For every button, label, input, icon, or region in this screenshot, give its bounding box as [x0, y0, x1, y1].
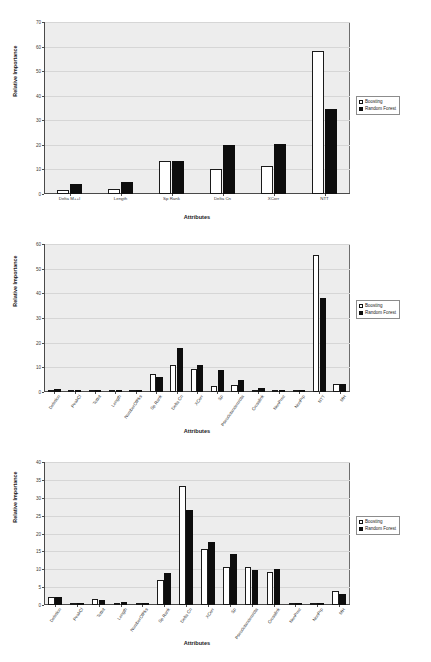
bar-random-forest — [172, 161, 184, 194]
x-axis-tick-mark — [339, 605, 340, 607]
legend: BoostingRandom Forest — [356, 516, 400, 535]
x-axis-tick-mark — [197, 392, 198, 394]
bar-random-forest — [54, 389, 60, 392]
bar-random-forest — [218, 370, 224, 392]
legend-swatch-random-forest-icon — [359, 311, 363, 315]
bar-group — [268, 244, 288, 392]
bar-boosting — [129, 390, 135, 392]
bar-group — [64, 244, 84, 392]
legend-label: Random Forest — [365, 106, 396, 113]
bar-random-forest — [75, 390, 81, 392]
x-axis-tick-label: NTT — [299, 196, 350, 201]
bar-boosting — [267, 572, 274, 605]
bar-group — [306, 462, 328, 605]
y-axis-tick-label: 10 — [36, 567, 41, 572]
bar-boosting — [312, 51, 324, 194]
bar-group — [248, 244, 268, 392]
bar-boosting — [150, 374, 156, 392]
x-axis-tick-mark — [258, 392, 259, 394]
y-axis-tick-label: 20 — [36, 531, 41, 536]
legend-label: Random Forest — [365, 310, 396, 317]
bar-boosting — [170, 365, 176, 392]
y-axis-tick-label: 30 — [36, 495, 41, 500]
bar-group — [44, 22, 95, 194]
x-axis-tick-mark — [208, 605, 209, 607]
bar-group — [95, 22, 146, 194]
x-axis-title: Attributes — [44, 428, 350, 434]
bar-group — [299, 22, 350, 194]
x-axis-tick-mark — [99, 605, 100, 607]
bar-group — [219, 462, 241, 605]
bar-boosting — [252, 390, 258, 392]
x-axis-tick-mark — [55, 605, 56, 607]
y-axis-tick-label: 10 — [36, 167, 41, 172]
legend-swatch-boosting-icon — [359, 520, 363, 524]
bar-boosting — [223, 567, 230, 605]
bar-boosting — [92, 599, 99, 605]
x-axis-tick-mark — [317, 605, 318, 607]
bar-random-forest — [320, 298, 326, 392]
y-axis-tick-label: 5 — [38, 585, 41, 590]
bar-random-forest — [339, 594, 346, 605]
x-axis-tick-label: Length — [95, 196, 146, 201]
bar-random-forest — [340, 384, 346, 392]
bar-group — [241, 462, 263, 605]
legend: BoostingRandom Forest — [356, 96, 400, 115]
x-axis-tick-mark — [230, 605, 231, 607]
bar-boosting — [57, 190, 69, 194]
bar-group — [284, 462, 306, 605]
x-axis-tick-mark — [177, 392, 178, 394]
bar-group — [110, 462, 132, 605]
bar-group — [66, 462, 88, 605]
x-axis-tick-mark — [340, 392, 341, 394]
legend-item-random-forest: Random Forest — [359, 310, 396, 317]
bar-group — [44, 462, 66, 605]
bar-random-forest — [299, 390, 305, 392]
x-axis-tick-mark — [186, 605, 187, 607]
x-axis-tick-mark — [54, 392, 55, 394]
bar-group — [126, 244, 146, 392]
y-axis-tick-label: 40 — [36, 291, 41, 296]
bar-random-forest — [55, 597, 62, 605]
bar-random-forest — [223, 145, 235, 194]
bar-group — [88, 462, 110, 605]
x-axis-title: Attributes — [44, 640, 350, 646]
bar-boosting — [231, 385, 237, 392]
legend: BoostingRandom Forest — [356, 300, 400, 319]
bar-random-forest — [186, 510, 193, 605]
x-axis-tick-mark — [115, 392, 116, 394]
legend-label: Random Forest — [365, 526, 396, 533]
bar-random-forest — [252, 570, 259, 605]
bar-random-forest — [156, 377, 162, 392]
bar-group — [187, 244, 207, 392]
bar-group — [146, 244, 166, 392]
x-axis-tick-mark — [217, 392, 218, 394]
bar-random-forest — [164, 573, 171, 605]
bar-random-forest — [77, 603, 84, 605]
x-axis-tick-mark — [95, 392, 96, 394]
bar-group — [197, 462, 219, 605]
bar-random-forest — [274, 569, 281, 605]
figure-2: 0102030405060DeletionPeakClTotIntLengthN… — [0, 232, 431, 448]
bar-group — [328, 462, 350, 605]
bar-boosting — [108, 189, 120, 194]
bar-group — [131, 462, 153, 605]
bar-group — [197, 22, 248, 194]
x-axis-tick-label: Delta Cn — [197, 196, 248, 201]
y-axis-tick-label: 0 — [38, 390, 41, 395]
bar-group — [263, 462, 285, 605]
bar-group — [105, 244, 125, 392]
x-axis-tick-mark — [238, 392, 239, 394]
x-axis-tick-mark — [77, 605, 78, 607]
x-axis-tick-label: Sp Rank — [146, 196, 197, 201]
bar-boosting — [114, 603, 121, 605]
bar-random-forest — [258, 388, 264, 392]
bar-boosting — [157, 580, 164, 605]
x-axis-tick-mark — [299, 392, 300, 394]
legend-item-random-forest: Random Forest — [359, 106, 396, 113]
y-axis-tick-label: 40 — [36, 460, 41, 465]
bar-random-forest — [274, 144, 286, 194]
x-axis-tick-label: Deletion — [12, 607, 62, 662]
bar-boosting — [245, 567, 252, 605]
legend-swatch-boosting-icon — [359, 100, 363, 104]
